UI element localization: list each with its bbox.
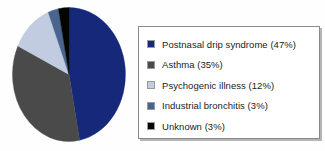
pie-chart: [12, 7, 126, 142]
legend-item-label: Asthma (35%): [162, 59, 223, 70]
legend-item-list: Postnasal drip syndrome (47%)Asthma (35%…: [139, 27, 319, 138]
legend-color-swatch: [147, 61, 155, 69]
legend-item-label: Psychogenic illness (12%): [162, 80, 274, 91]
legend-color-swatch: [147, 102, 155, 110]
legend-item-label: Industrial bronchitis (3%): [162, 100, 268, 111]
legend-item[interactable]: Unknown (3%): [147, 116, 319, 137]
pie-slice-group: [13, 8, 126, 142]
pie-chart-figure: Postnasal drip syndrome (47%)Asthma (35%…: [0, 0, 325, 151]
legend-color-swatch: [147, 40, 155, 48]
legend-item-label: Postnasal drip syndrome (47%): [162, 39, 296, 50]
legend-item[interactable]: Postnasal drip syndrome (47%): [147, 34, 319, 55]
pie-slice: [69, 8, 125, 141]
chart-legend: Postnasal drip syndrome (47%)Asthma (35%…: [138, 26, 320, 139]
legend-color-swatch: [147, 81, 155, 89]
legend-item[interactable]: Industrial bronchitis (3%): [147, 96, 319, 117]
legend-item[interactable]: Asthma (35%): [147, 55, 319, 76]
legend-color-swatch: [147, 122, 155, 130]
legend-item-label: Unknown (3%): [162, 121, 225, 132]
legend-item[interactable]: Psychogenic illness (12%): [147, 75, 319, 96]
pie-chart-svg: [12, 7, 126, 142]
